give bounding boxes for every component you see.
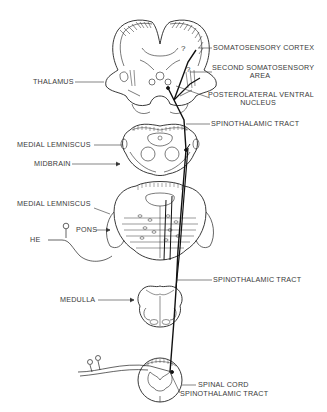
label-spinal-cord: SPINAL CORD xyxy=(198,381,249,389)
label-medial-lemniscus-upper: MEDIAL LEMNISCUS xyxy=(17,141,91,149)
cerebrum-section xyxy=(106,20,217,114)
label-thalamus: THALAMUS xyxy=(33,78,74,86)
question-mark-cortex: ? xyxy=(181,45,186,53)
label-second-somatosensory-line2: AREA xyxy=(212,72,308,80)
question-mark-second-area: ? xyxy=(186,66,191,74)
label-somatosensory-cortex: SOMATOSENSORY CORTEX xyxy=(213,44,314,52)
label-he: HE xyxy=(30,236,40,244)
label-midbrain: MIDBRAIN xyxy=(34,160,71,168)
label-posterolateral-line2: NUCLEUS xyxy=(208,99,308,107)
label-second-somatosensory-area: SECOND SOMATOSENSORY AREA xyxy=(212,64,308,80)
label-pons: PONS xyxy=(76,226,97,234)
label-spinothalamic-tract-lower: SPINOTHALAMIC TRACT xyxy=(180,390,268,398)
spinal-cord-section xyxy=(138,358,182,402)
pons-section xyxy=(107,182,214,261)
label-medulla: MEDULLA xyxy=(60,296,95,304)
label-medial-lemniscus-lower: MEDIAL LEMNISCUS xyxy=(17,200,91,208)
label-spinothalamic-tract-upper: SPINOTHALAMIC TRACT xyxy=(211,120,299,128)
label-posterolateral-ventral-nucleus: POSTEROLATERAL VENTRAL NUCLEUS xyxy=(208,91,308,107)
leader-lines xyxy=(72,48,212,393)
label-spinothalamic-tract-middle: SPINOTHALAMIC TRACT xyxy=(213,276,301,284)
